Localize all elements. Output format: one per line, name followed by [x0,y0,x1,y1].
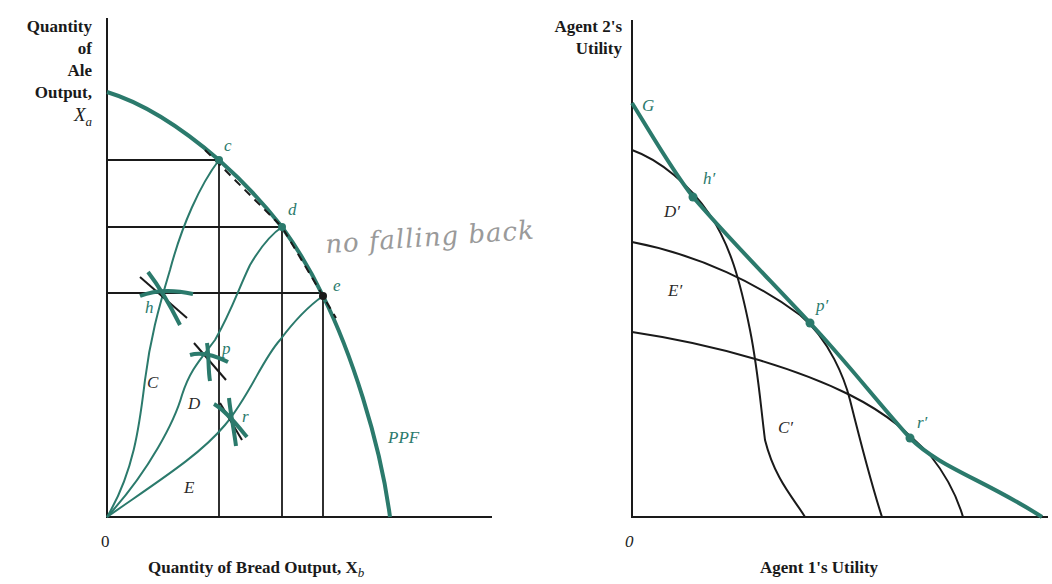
y-label-subscript: a [86,114,93,129]
point-r-prime-marker [906,434,915,443]
point-e-marker [319,292,327,300]
contract-curve-d [107,227,282,517]
label-point-p-prime: p′ [816,296,828,316]
y-label-var: X [74,104,86,125]
y-label-line: Ale [0,60,92,82]
contract-curve-c [107,160,219,517]
label-curve-d-prime: D′ [664,202,680,222]
y-label-line: of [0,38,92,60]
right-origin-label: 0 [625,532,634,552]
label-point-p: p [222,339,231,359]
label-point-r: r [242,407,249,427]
left-origin-label: 0 [101,532,110,552]
y-label-line: Quantity [0,16,92,38]
label-point-c: c [224,136,232,156]
diagram-canvas [0,0,1052,584]
y-label-line: Utility [510,38,622,60]
label-curve-g: G [642,96,654,116]
label-ppf: PPF [388,428,419,448]
point-h-prime-marker [689,193,698,202]
y-label-line: Output, [0,82,92,104]
point-d-marker [278,223,286,231]
point-c-marker [215,156,223,164]
label-point-h-prime: h′ [703,169,715,189]
label-curve-c-prime: C′ [778,418,793,438]
upf-c-prime [632,150,805,517]
upf-e-prime [632,332,963,517]
right-panel [631,20,1048,518]
right-x-axis-title: Agent 1's Utility [760,557,878,579]
label-point-r-prime: r′ [917,413,927,433]
label-curve-d: D [188,394,200,414]
left-x-axis-title: Quantity of Bread Output, Xb [148,557,364,584]
label-point-d: d [288,200,297,220]
grand-upf-g [632,103,1042,517]
right-y-axis-title: Agent 2's Utility [510,16,622,60]
x-label-text: Quantity of Bread Output, X [148,558,358,577]
x-label-subscript: b [358,565,365,580]
point-p-prime-marker [806,319,815,328]
label-point-h: h [145,298,154,318]
label-curve-e-prime: E′ [668,281,682,301]
label-curve-c: C [147,373,158,393]
label-point-e: e [333,276,341,296]
left-panel [106,18,492,518]
left-y-axis-title: Quantity of Ale Output, Xa [0,16,92,133]
label-curve-e: E [184,478,194,498]
y-label-line: Agent 2's [510,16,622,38]
